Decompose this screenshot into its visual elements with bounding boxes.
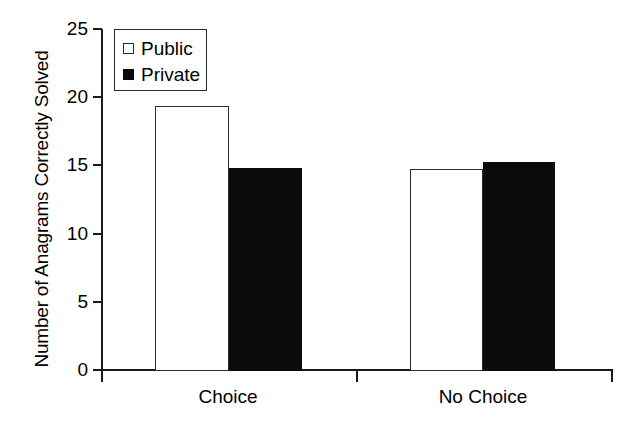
y-tick-label-20: 20	[42, 86, 88, 108]
y-tick-label-10: 10	[42, 223, 88, 245]
y-tick-label-15: 15	[42, 154, 88, 176]
chart-legend: Public Private	[114, 29, 207, 91]
x-tick-mark-left	[101, 371, 103, 382]
y-tick-label-0: 0	[42, 359, 88, 381]
legend-entry-private: Private	[123, 61, 206, 87]
bar-chart-figure: Number of Anagrams Correctly Solved 25 2…	[0, 0, 641, 432]
legend-entry-public: Public	[123, 35, 206, 61]
x-tick-label-choice: Choice	[198, 386, 257, 408]
legend-label-public: Public	[141, 39, 193, 58]
bar-choice-public	[155, 106, 229, 371]
bar-nochoice-public	[410, 169, 483, 371]
legend-label-private: Private	[141, 65, 200, 84]
y-axis-line	[101, 29, 103, 371]
legend-swatch-public-icon	[123, 43, 134, 54]
x-tick-mark-middle	[356, 371, 358, 382]
x-tick-mark-right	[611, 371, 613, 382]
bar-nochoice-private	[483, 162, 555, 371]
bar-choice-private	[229, 168, 302, 371]
x-tick-label-no-choice: No Choice	[439, 386, 528, 408]
legend-swatch-private-icon	[123, 69, 134, 80]
y-tick-label-5: 5	[42, 291, 88, 313]
y-tick-label-25: 25	[42, 18, 88, 40]
